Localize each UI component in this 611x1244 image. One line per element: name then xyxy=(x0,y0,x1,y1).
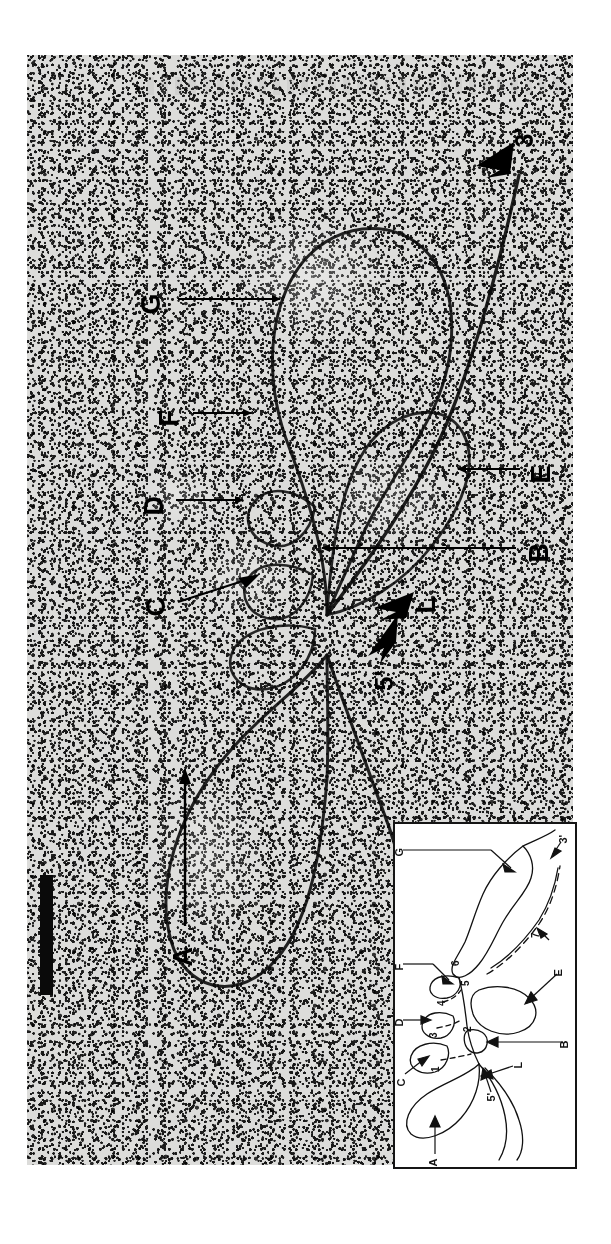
micrograph-label-B: B xyxy=(526,533,553,563)
micrograph-label-E: E xyxy=(528,454,555,484)
inset-label-G: G xyxy=(394,843,405,857)
inset-num-3: 3 xyxy=(429,1028,439,1038)
pointer-arrow-A xyxy=(173,768,197,928)
micrograph-label-D: D xyxy=(141,486,168,516)
inset-label-5prime: 5' xyxy=(486,1086,497,1102)
figure-panel: 3' G F E D B C L 5' A xyxy=(0,0,611,1244)
inset-num-2: 2 xyxy=(463,1022,473,1032)
pointer-arrow-G xyxy=(178,298,280,300)
micrograph-label-L: L xyxy=(413,584,440,614)
inset-label-B: B xyxy=(559,1035,570,1049)
pointer-arrow-D xyxy=(176,499,243,501)
inset-num-6: 6 xyxy=(451,956,461,966)
inset-schematic-diagram: G F D C A E B L 3' 5' 1 2 3 4 5 6 7 xyxy=(393,822,577,1169)
pointer-arrow-B xyxy=(322,547,516,549)
inset-label-D: D xyxy=(394,1013,405,1027)
micrograph-label-A: A xyxy=(170,937,197,967)
inset-num-7: 7 xyxy=(531,928,541,938)
scale-bar xyxy=(40,875,53,995)
pointer-arrow-F xyxy=(193,412,251,414)
micrograph-label-C: C xyxy=(143,587,170,617)
micrograph-label-F: F xyxy=(156,397,183,427)
scan-artifact-ghosting xyxy=(147,77,567,95)
micrograph-label-G: G xyxy=(138,285,165,315)
inset-label-A: A xyxy=(428,1153,439,1167)
inset-line-drawing xyxy=(395,824,571,1163)
inset-label-E: E xyxy=(553,963,564,977)
inset-label-L: L xyxy=(513,1055,524,1069)
arrowhead-5prime-icon xyxy=(358,612,406,666)
inset-label-C: C xyxy=(396,1073,407,1087)
inset-label-F: F xyxy=(394,957,405,971)
inset-label-3prime: 3' xyxy=(558,828,569,844)
inset-num-5: 5 xyxy=(461,976,471,986)
pointer-arrow-C xyxy=(176,572,262,606)
inset-num-4: 4 xyxy=(437,996,447,1006)
inset-num-1: 1 xyxy=(431,1062,441,1072)
arrowhead-3prime-icon xyxy=(470,140,516,180)
pointer-arrow-E xyxy=(458,468,520,470)
